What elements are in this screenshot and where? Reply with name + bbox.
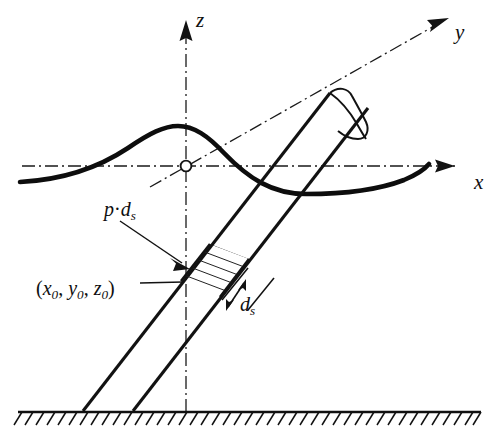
axis-label-y: y [455, 22, 464, 43]
element-differential-sub: s [250, 303, 255, 318]
point-leader-line [140, 282, 183, 283]
axis-label-x: x [474, 172, 483, 193]
axis-label-z: z [196, 10, 204, 31]
rod-edge-left [83, 93, 330, 411]
rod-edge-right [133, 108, 368, 411]
differential-element [170, 232, 288, 311]
load-symbol: p [104, 198, 114, 220]
load-leader [120, 221, 190, 271]
arrow-right-icon [435, 160, 455, 173]
load-differential-sub: s [131, 208, 136, 223]
load-label: p·ds [104, 199, 136, 222]
coord-sep-2: , [84, 277, 94, 299]
diagram-canvas [0, 0, 503, 442]
slice-face-far [220, 259, 249, 297]
ground-support [14, 412, 481, 425]
ds-arrow-down-icon [226, 299, 234, 311]
ground-hatching [14, 412, 481, 425]
paren-open: ( [36, 277, 43, 299]
inclined-rod [83, 89, 368, 411]
arrow-up-icon [180, 20, 193, 41]
point-coordinates-label: (x0, y0, z0) [36, 278, 115, 301]
element-length-label: ds [240, 294, 255, 317]
load-operator: · [114, 198, 121, 220]
load-leader-line [120, 221, 182, 263]
coord-y-sub: 0 [77, 287, 84, 302]
coord-x: x [43, 277, 52, 299]
load-differential: d [121, 198, 131, 220]
arrow-upright-icon [427, 18, 449, 32]
coord-sep-1: , [58, 277, 68, 299]
surface-curve [20, 126, 429, 194]
ds-arrow-up-icon [238, 279, 246, 291]
origin-marker [181, 161, 192, 172]
element-differential: d [240, 293, 250, 315]
coord-y: y [68, 277, 77, 299]
load-arrow-icon [170, 258, 190, 271]
technical-diagram: z y x p·ds (x0, y0, z0) ds [0, 0, 503, 442]
paren-close: ) [108, 277, 115, 299]
axis-group [22, 18, 455, 412]
y-axis-line [150, 21, 443, 187]
